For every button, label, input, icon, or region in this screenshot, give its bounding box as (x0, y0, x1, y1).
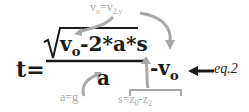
arrow-top-left (78, 17, 113, 32)
numerator: vo-2*a*s (60, 32, 148, 59)
lhs-t: t= (16, 56, 45, 82)
arrow-bottom-left (83, 75, 97, 96)
ann-s: s= (118, 92, 129, 106)
tail-v-sub: o (170, 68, 179, 83)
num-rest: -2*a*s (80, 32, 147, 56)
denominator: a (97, 66, 110, 90)
annotation-top: vo=v2,y (90, 0, 122, 16)
tail-v: -v (150, 56, 170, 80)
arrow-left-icon (188, 66, 198, 76)
ann-eq: =v (100, 0, 113, 14)
ann-v2-sub: 2,y (113, 7, 123, 16)
equation-label: eq.2 (214, 61, 238, 77)
arrow-bottom-right (146, 63, 148, 88)
num-v-sub: o (72, 44, 81, 59)
num-v: v (60, 32, 72, 56)
tail-term: -vo (150, 56, 179, 83)
annotation-a-equals-g: a=g (60, 90, 78, 105)
annotation-s: s=z0-z2 (118, 92, 152, 108)
ann-z2-sub: 2 (148, 99, 152, 108)
ann-minus-z: -z (139, 92, 148, 106)
arrowhead-icon (165, 40, 175, 50)
